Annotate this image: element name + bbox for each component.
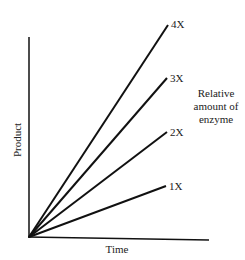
series-label-4x: 4X xyxy=(171,18,185,30)
legend-title-line-1: Relative xyxy=(198,87,235,99)
series-line-2x xyxy=(29,132,167,237)
series-label-1x: 1X xyxy=(169,180,183,192)
legend-title-line-2: amount of xyxy=(194,100,239,112)
chart: 4X 3X 2X 1X Relative amount of enzyme Pr… xyxy=(0,0,245,260)
x-axis-label: Time xyxy=(106,243,129,255)
series-label-3x: 3X xyxy=(170,72,184,84)
series-line-3x xyxy=(29,78,167,237)
legend-title-line-3: enzyme xyxy=(199,113,233,125)
x-axis xyxy=(28,237,209,240)
y-axis-label: Product xyxy=(11,123,23,157)
series-label-2x: 2X xyxy=(170,126,184,138)
series-line-4x xyxy=(29,25,168,237)
series-line-1x xyxy=(29,186,166,237)
